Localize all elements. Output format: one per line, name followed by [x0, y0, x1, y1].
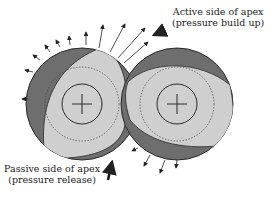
active-label-line1: Active side of apex	[172, 6, 264, 17]
active-side-arrow-icon	[154, 30, 165, 35]
passive-label-line2: (pressure release)	[4, 174, 100, 185]
active-label-line2: (pressure build up)	[172, 17, 264, 28]
active-side-label: Active side of apex (pressure build up)	[172, 6, 264, 28]
passive-side-arrow-icon	[108, 162, 112, 180]
passive-side-label: Passive side of apex (pressure release)	[4, 163, 100, 185]
right-barrel	[121, 48, 233, 160]
passive-label-line1: Passive side of apex	[4, 163, 100, 174]
twin-screw-diagram: Active side of apex (pressure build up) …	[0, 0, 273, 205]
